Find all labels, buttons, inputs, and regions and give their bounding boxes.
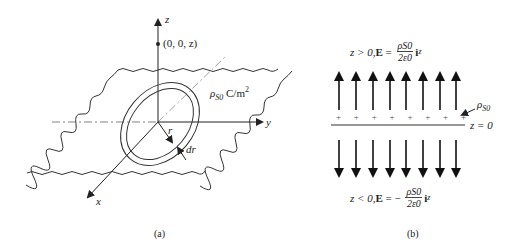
upward-field-arrows xyxy=(339,73,456,110)
point-label: (0, 0, z) xyxy=(163,38,197,49)
z-axis-label: z xyxy=(165,14,169,25)
upper-fraction: ρS0 2ε0 xyxy=(397,40,414,63)
plus-signs-row: + + + + + + + + xyxy=(336,112,466,122)
point-marker xyxy=(156,42,160,46)
charge-density-label: ρS0 C/m2 xyxy=(210,86,249,102)
lower-field-equation: z < 0, E = − ρS0 2ε0 iz xyxy=(350,186,430,209)
plane-label: z = 0 xyxy=(470,120,493,131)
charged-plane xyxy=(26,69,292,190)
upper-field-equation: z > 0, E = ρS0 2ε0 iz xyxy=(350,40,422,63)
y-axis-label: y xyxy=(266,117,271,128)
x-axis-label: x xyxy=(96,196,101,207)
caption-b: (b) xyxy=(407,228,419,239)
sheet-density-label: ρS0 xyxy=(477,99,490,113)
ring-width-label: dr xyxy=(186,144,196,155)
caption-a: (a) xyxy=(154,228,165,239)
radius-label: r xyxy=(168,125,172,136)
figure: z (0, 0, z) y x ρS0 C/m2 r dr (a) z > 0,… xyxy=(0,0,514,243)
lower-fraction: ρS0 2ε0 xyxy=(405,186,422,209)
downward-field-arrows xyxy=(339,140,456,176)
